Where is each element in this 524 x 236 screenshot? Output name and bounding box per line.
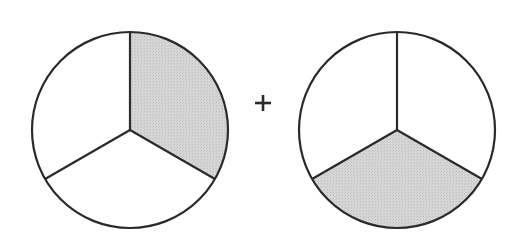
right-pie [299,32,495,228]
left-pie [32,32,228,228]
fraction-addition-diagram [0,0,524,236]
plus-operator [255,95,271,111]
